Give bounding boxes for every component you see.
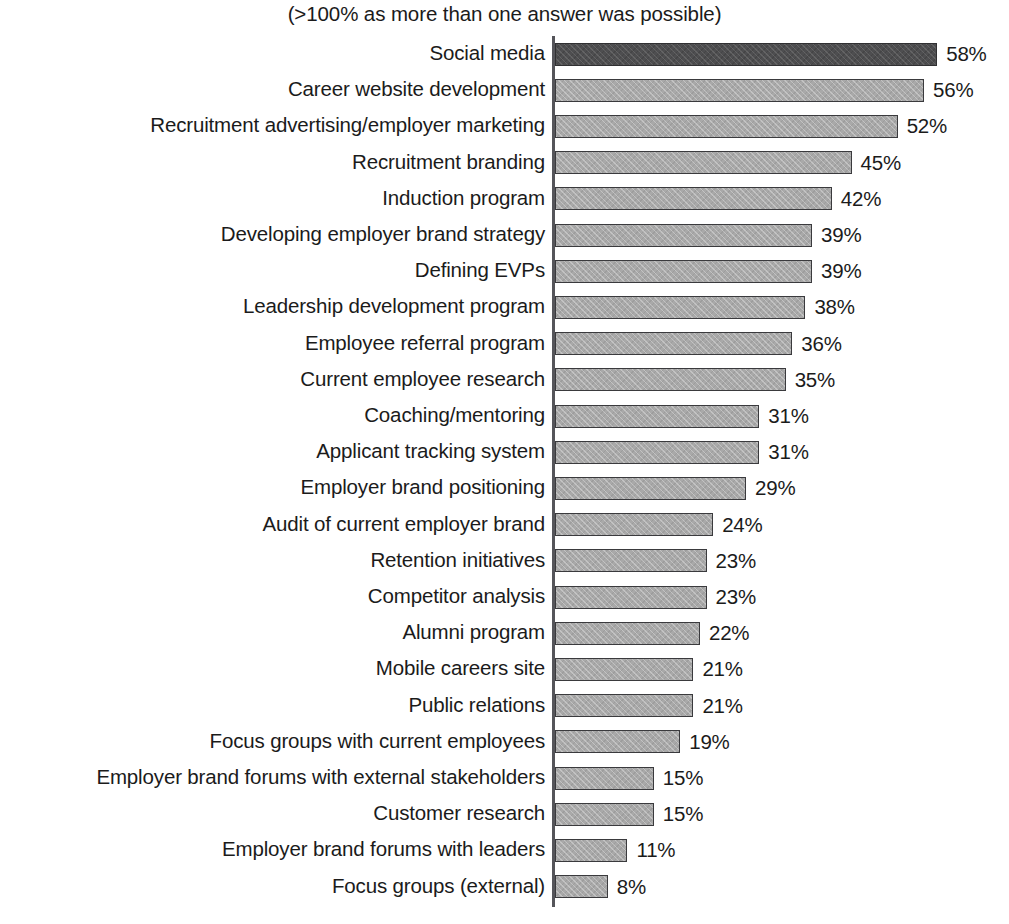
bar-value-label: 58% [946,43,986,65]
bar [555,549,707,572]
plot-area: Social media58%Career website developmen… [0,0,1009,924]
bar [555,513,713,536]
bar [555,694,693,717]
bar-row: Alumni program22% [0,621,1009,655]
category-label: Employer brand forums with leaders [4,838,545,860]
bar-row: Induction program42% [0,187,1009,221]
category-label: Audit of current employer brand [4,513,545,535]
bar-value-label: 56% [933,79,973,101]
bar [555,79,924,102]
bar-row: Employee referral program36% [0,332,1009,366]
bar-with-value: 38% [555,295,855,319]
category-label: Applicant tracking system [4,440,545,462]
bar [555,224,812,247]
bar [555,803,654,826]
bar [555,622,700,645]
bar-value-label: 42% [841,188,881,210]
bar-with-value: 19% [555,730,730,754]
bar-row: Applicant tracking system31% [0,440,1009,474]
bar-value-label: 36% [801,333,841,355]
bar-chart: (>100% as more than one answer was possi… [0,0,1009,924]
bar-row: Mobile careers site21% [0,657,1009,691]
bar-with-value: 35% [555,368,835,392]
bar-value-label: 52% [907,115,947,137]
bar-with-value: 31% [555,404,809,428]
category-label: Public relations [4,694,545,716]
bar-row: Public relations21% [0,694,1009,728]
bar-row: Employer brand positioning29% [0,476,1009,510]
bar-value-label: 31% [768,441,808,463]
bar-row: Employer brand forums with external stak… [0,766,1009,800]
bar-with-value: 15% [555,802,703,826]
bar-row: Focus groups (external)8% [0,875,1009,909]
bar-with-value: 15% [555,766,703,790]
bar [555,368,786,391]
bar-with-value: 24% [555,513,763,537]
category-label: Career website development [4,78,545,100]
bar [555,586,707,609]
category-label: Retention initiatives [4,549,545,571]
category-label: Customer research [4,802,545,824]
bar-value-label: 21% [702,695,742,717]
bar-value-label: 15% [663,803,703,825]
bar-with-value: 22% [555,621,749,645]
bar-with-value: 11% [555,838,675,862]
category-label: Defining EVPs [4,259,545,281]
bar-row: Employer brand forums with leaders11% [0,838,1009,872]
bar-value-label: 39% [821,224,861,246]
bar-with-value: 31% [555,440,809,464]
bar-value-label: 8% [617,876,646,898]
bar-with-value: 56% [555,78,973,102]
bar-row: Leadership development program38% [0,295,1009,329]
category-label: Recruitment advertising/employer marketi… [4,114,545,136]
bar-value-label: 15% [663,767,703,789]
bar [555,260,812,283]
category-label: Mobile careers site [4,657,545,679]
category-label: Coaching/mentoring [4,404,545,426]
bar-with-value: 39% [555,223,861,247]
bar [555,477,746,500]
bar-row: Recruitment advertising/employer marketi… [0,114,1009,148]
bar-with-value: 58% [555,42,987,66]
bar [555,405,759,428]
category-label: Leadership development program [4,295,545,317]
category-label: Alumni program [4,621,545,643]
bar [555,875,608,898]
bar-with-value: 21% [555,694,743,718]
bar-value-label: 24% [722,514,762,536]
category-label: Employee referral program [4,332,545,354]
bar-with-value: 42% [555,187,881,211]
bar-value-label: 19% [689,731,729,753]
bar-value-label: 39% [821,260,861,282]
bar-row: Customer research15% [0,802,1009,836]
bar [555,115,898,138]
bar-row: Current employee research35% [0,368,1009,402]
bar-with-value: 39% [555,259,861,283]
category-label: Employer brand forums with external stak… [4,766,545,788]
category-label: Competitor analysis [4,585,545,607]
bar-with-value: 21% [555,657,743,681]
bar-row: Developing employer brand strategy39% [0,223,1009,257]
bar-value-label: 38% [814,296,854,318]
bar [555,151,852,174]
bar-with-value: 36% [555,332,842,356]
bar-row: Competitor analysis23% [0,585,1009,619]
bar-value-label: 21% [702,658,742,680]
bar-with-value: 8% [555,875,646,899]
bar-value-label: 45% [861,152,901,174]
bar [555,730,680,753]
category-label: Focus groups with current employees [4,730,545,752]
category-label: Social media [4,42,545,64]
bar-row: Recruitment branding45% [0,151,1009,185]
category-label: Employer brand positioning [4,476,545,498]
bar-value-label: 22% [709,622,749,644]
bar-value-label: 31% [768,405,808,427]
bar-row: Social media58% [0,42,1009,76]
bar-value-label: 11% [636,839,675,861]
bar-value-label: 29% [755,477,795,499]
category-label: Induction program [4,187,545,209]
bar [555,43,937,66]
bar-value-label: 23% [716,586,756,608]
bar-with-value: 23% [555,549,756,573]
bar-value-label: 35% [795,369,835,391]
